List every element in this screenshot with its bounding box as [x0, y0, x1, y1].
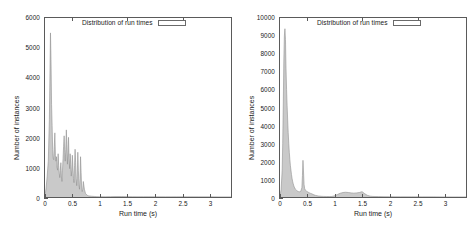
- right-ytick-label-3000: 3000: [239, 140, 275, 147]
- left-ytick-label-4000: 4000: [8, 74, 40, 81]
- left-xtick-mark-1.5: [127, 194, 128, 198]
- right-ytick-label-0: 0: [239, 195, 275, 202]
- left-legend-label: Distribution of run times: [82, 19, 153, 26]
- right-xtick-label-0: 0: [278, 200, 282, 207]
- right-legend-label: Distribution of run times: [317, 19, 388, 26]
- left-legend-sample-icon: [158, 20, 186, 26]
- right-ytick-label-10000: 10000: [239, 14, 275, 21]
- right-xtick-label-3: 3: [444, 200, 448, 207]
- left-legend: Distribution of run times: [82, 19, 186, 26]
- right-xtick-mark-0.5: [307, 194, 308, 198]
- left-plot-frame: [44, 17, 232, 198]
- left-xtick-mark-1: [100, 194, 101, 198]
- right-legend-sample-icon: [393, 20, 421, 26]
- left-xtick-mark-2: [155, 194, 156, 198]
- right-ytick-label-2000: 2000: [239, 158, 275, 165]
- right-ytick-label-5000: 5000: [239, 104, 275, 111]
- right-xtick-mark-2: [390, 194, 391, 198]
- left-xtick-label-1: 1: [98, 200, 102, 207]
- right-ytick-label-8000: 8000: [239, 50, 275, 57]
- right-x-axis-title: Run time (s): [279, 210, 467, 217]
- left-x-axis-title: Run time (s): [44, 210, 232, 217]
- left-xtick-label-1.5: 1.5: [123, 200, 132, 207]
- left-xtick-label-3: 3: [209, 200, 213, 207]
- right-xtick-mark-2.5: [418, 194, 419, 198]
- left-ytick-label-5000: 5000: [8, 44, 40, 51]
- right-xtick-mark-top-0.5: [307, 17, 308, 21]
- left-plot-area: [45, 18, 231, 197]
- left-xtick-label-0: 0: [43, 200, 47, 207]
- right-xtick-mark-1: [335, 194, 336, 198]
- right-xtick-label-0.5: 0.5: [303, 200, 312, 207]
- left-xtick-mark-3: [210, 194, 211, 198]
- left-ytick-label-6000: 6000: [8, 14, 40, 21]
- right-ytick-label-7000: 7000: [239, 68, 275, 75]
- right-plot-area: [280, 18, 466, 197]
- right-ytick-label-6000: 6000: [239, 86, 275, 93]
- left-xtick-label-0.5: 0.5: [68, 200, 77, 207]
- left-xtick-mark-0.5: [72, 194, 73, 198]
- right-ytick-label-1000: 1000: [239, 176, 275, 183]
- right-ytick-label-9000: 9000: [239, 32, 275, 39]
- right-xtick-label-2: 2: [389, 200, 393, 207]
- left-histogram-curve: [45, 18, 231, 197]
- left-ytick-label-1000: 1000: [8, 164, 40, 171]
- right-histogram-curve: [280, 18, 466, 197]
- right-xtick-label-1.5: 1.5: [358, 200, 367, 207]
- left-xtick-mark-2.5: [183, 194, 184, 198]
- figure-root: Number of instances 0 1000 2000 3000 400…: [0, 0, 470, 241]
- right-plot-frame: [279, 17, 467, 198]
- right-xtick-label-2.5: 2.5: [413, 200, 422, 207]
- left-xtick-label-2.5: 2.5: [178, 200, 187, 207]
- right-xtick-mark-0: [280, 194, 281, 198]
- left-histogram-panel: Number of instances 0 1000 2000 3000 400…: [0, 0, 235, 241]
- right-xtick-mark-3: [445, 194, 446, 198]
- left-ytick-label-3000: 3000: [8, 104, 40, 111]
- right-histogram-panel: Number of instances 0 1000 2000 3000 400…: [235, 0, 470, 241]
- left-xtick-mark-0: [45, 194, 46, 198]
- left-xtick-label-2: 2: [154, 200, 158, 207]
- left-xtick-mark-top-0.5: [72, 17, 73, 21]
- right-legend: Distribution of run times: [317, 19, 421, 26]
- right-ytick-label-4000: 4000: [239, 122, 275, 129]
- right-xtick-mark-1.5: [362, 194, 363, 198]
- right-xtick-label-1: 1: [333, 200, 337, 207]
- left-ytick-label-2000: 2000: [8, 134, 40, 141]
- left-ytick-label-0: 0: [8, 195, 40, 202]
